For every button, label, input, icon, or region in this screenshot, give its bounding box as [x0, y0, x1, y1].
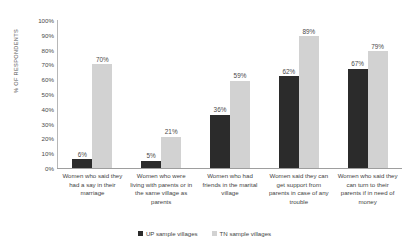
y-axis-tick-labels: 0%10%20%30%40%50%60%70%80%90%100% — [24, 18, 54, 170]
bar-up — [348, 69, 368, 168]
bar-column: 5% — [141, 20, 161, 168]
chart-legend: UP sample villagesTN sample villages — [0, 230, 409, 237]
y-axis-title: % OF RESPONDENTS — [13, 1, 19, 121]
y-axis-tick: 40% — [24, 105, 54, 112]
bar-up — [72, 159, 92, 168]
bar-group: 6%70% — [58, 20, 127, 168]
bar-tn — [368, 51, 388, 168]
bar-value-label: 70% — [85, 56, 119, 63]
bar-pair: 36%59% — [196, 20, 265, 168]
bar-up — [210, 115, 230, 168]
bar-up — [141, 161, 161, 168]
bar-column: 21% — [161, 20, 181, 168]
bar-chart: % OF RESPONDENTS 0%10%20%30%40%50%60%70%… — [0, 0, 409, 250]
bar-tn — [299, 36, 319, 168]
bar-group: 67%79% — [333, 20, 402, 168]
category-label: Women said they can get support from par… — [267, 172, 330, 207]
y-axis-tick: 70% — [24, 61, 54, 68]
bar-group: 62%89% — [264, 20, 333, 168]
bar-column: 79% — [368, 20, 388, 168]
bar-up — [279, 76, 299, 168]
y-axis-tick: 0% — [24, 165, 54, 172]
legend-label: UP sample villages — [146, 230, 198, 237]
legend-swatch-icon — [212, 231, 217, 236]
bar-column: 70% — [92, 20, 112, 168]
bar-value-label: 79% — [361, 43, 395, 50]
bar-value-label: 21% — [154, 128, 188, 135]
category-label: Women who had friends in the marital vil… — [199, 172, 262, 198]
x-axis-category-labels: Women who said they had a say in their m… — [58, 172, 402, 224]
category-label: Women who said they can turn to their pa… — [336, 172, 399, 207]
category-label: Women who said they had a say in their m… — [61, 172, 124, 198]
bar-pair: 5%21% — [127, 20, 196, 168]
plot-area: 6%70%5%21%36%59%62%89%67%79% — [58, 20, 402, 168]
bar-group: 5%21% — [127, 20, 196, 168]
x-axis-line — [57, 168, 402, 169]
category-label: Women who were living with parents or in… — [130, 172, 193, 207]
bar-column: 36% — [210, 20, 230, 168]
y-axis-tick: 60% — [24, 76, 54, 83]
y-axis-tick: 20% — [24, 135, 54, 142]
legend-item[interactable]: UP sample villages — [138, 230, 198, 237]
legend-item[interactable]: TN sample villages — [212, 230, 271, 237]
bar-pair: 67%79% — [333, 20, 402, 168]
bar-group: 36%59% — [196, 20, 265, 168]
bar-column: 62% — [279, 20, 299, 168]
bar-tn — [230, 81, 250, 168]
bar-column: 59% — [230, 20, 250, 168]
y-axis-tick: 90% — [24, 31, 54, 38]
bar-column: 89% — [299, 20, 319, 168]
bar-value-label: 59% — [223, 72, 257, 79]
bar-pair: 62%89% — [264, 20, 333, 168]
legend-label: TN sample villages — [220, 230, 271, 237]
y-axis-tick: 30% — [24, 120, 54, 127]
y-axis-tick: 100% — [24, 17, 54, 24]
y-axis-tick: 50% — [24, 91, 54, 98]
bar-column: 6% — [72, 20, 92, 168]
y-axis-tick: 80% — [24, 46, 54, 53]
bar-pair: 6%70% — [58, 20, 127, 168]
y-axis-tick: 10% — [24, 150, 54, 157]
legend-swatch-icon — [138, 231, 143, 236]
bar-value-label: 89% — [292, 28, 326, 35]
bar-tn — [92, 64, 112, 168]
bar-tn — [161, 137, 181, 168]
